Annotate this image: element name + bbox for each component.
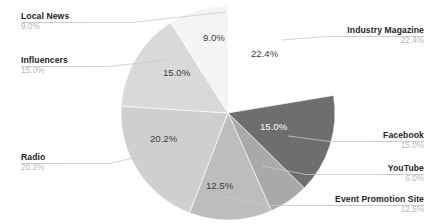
callout-event-promotion-site-title: Event Promotion Site bbox=[335, 194, 424, 204]
slice-value-influencers: 15.0% bbox=[163, 67, 190, 78]
callout-youtube-value: 6.0% bbox=[388, 173, 424, 184]
callout-facebook[interactable]: Facebook 15.0% bbox=[383, 130, 424, 151]
callout-event-promotion-site-value: 12.5% bbox=[335, 204, 424, 215]
slice-value-radio: 20.2% bbox=[150, 133, 177, 144]
callout-influencers[interactable]: Influencers 15.0% bbox=[21, 55, 68, 76]
slice-value-industry-magazine: 22.4% bbox=[251, 48, 278, 59]
slice-value-local-news: 9.0% bbox=[203, 32, 225, 43]
slice-value-facebook: 15.0% bbox=[260, 121, 287, 132]
pie-chart-figure: Local News 9.0% Influencers 15.0% Radio … bbox=[0, 0, 445, 224]
callout-facebook-value: 15.0% bbox=[383, 140, 424, 151]
callout-influencers-title: Influencers bbox=[21, 55, 68, 65]
callout-facebook-title: Facebook bbox=[383, 130, 424, 140]
callout-event-promotion-site[interactable]: Event Promotion Site 12.5% bbox=[335, 194, 424, 215]
callout-radio-value: 20.2% bbox=[21, 162, 45, 173]
callout-radio[interactable]: Radio 20.2% bbox=[21, 152, 45, 173]
callout-youtube-title: YouTube bbox=[388, 163, 424, 173]
callout-radio-title: Radio bbox=[21, 152, 45, 162]
callout-industry-magazine-value: 22.4% bbox=[347, 35, 424, 46]
callout-industry-magazine-title: Industry Magazine bbox=[347, 25, 424, 35]
callout-influencers-value: 15.0% bbox=[21, 65, 68, 76]
slice-value-event-promotion-site: 12.5% bbox=[206, 180, 233, 191]
callout-local-news-value: 9.0% bbox=[21, 21, 69, 32]
callout-industry-magazine[interactable]: Industry Magazine 22.4% bbox=[347, 25, 424, 46]
callout-youtube[interactable]: YouTube 6.0% bbox=[388, 163, 424, 184]
callout-local-news[interactable]: Local News 9.0% bbox=[21, 11, 69, 32]
pie-slice-industry-magazine[interactable] bbox=[232, 1, 338, 108]
callout-local-news-title: Local News bbox=[21, 11, 69, 21]
